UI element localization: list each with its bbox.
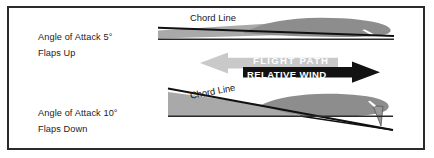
bottom-flaps-label: Flaps Down [38,124,88,134]
bottom-angle-of-attack-label: Angle of Attack 10° [38,108,118,118]
airfoil-angle-of-attack-figure: Angle of Attack 5° Flaps Up Angle of Att… [0,0,434,158]
top-flaps-label: Flaps Up [38,48,76,58]
relative-wind-arrow-label: RELATIVE WIND [247,69,327,80]
top-chord-line-label: Chord Line [190,12,236,23]
flight-path-arrow-label: FLIGHT PATH [253,55,329,66]
diagram-canvas [0,0,434,158]
top-angle-of-attack-label: Angle of Attack 5° [38,32,112,42]
